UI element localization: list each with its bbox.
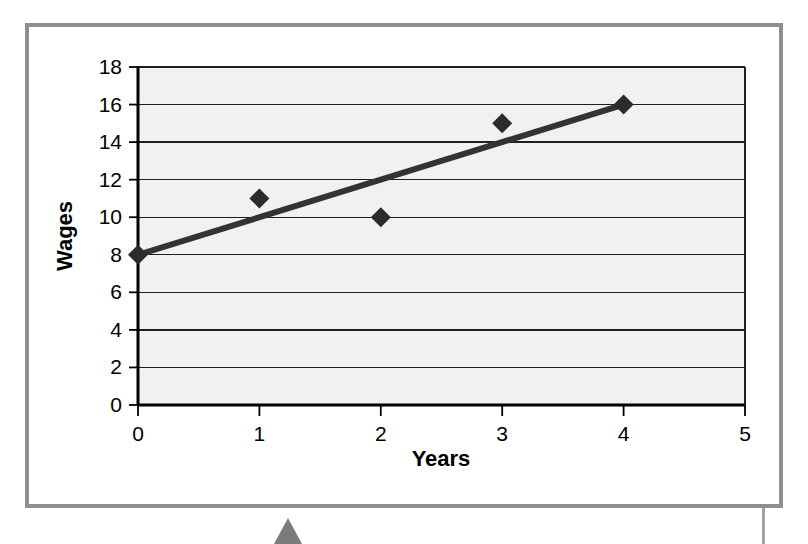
y-tick-label: 6 bbox=[110, 280, 122, 303]
x-tick-label: 2 bbox=[375, 422, 387, 445]
y-tick-label: 8 bbox=[110, 243, 122, 266]
y-tick-label: 2 bbox=[110, 355, 122, 378]
x-tick-label: 0 bbox=[132, 422, 144, 445]
x-axis-ticks bbox=[138, 405, 745, 416]
y-tick-label: 10 bbox=[99, 205, 122, 228]
y-axis-title: Wages bbox=[52, 201, 77, 271]
scatter-chart: 024681012141618 012345 Wages Years bbox=[0, 0, 808, 544]
y-tick-label: 18 bbox=[99, 55, 122, 78]
x-axis-title: Years bbox=[412, 446, 471, 471]
chart-area: 024681012141618 012345 Wages Years bbox=[0, 0, 808, 544]
y-tick-label: 12 bbox=[99, 168, 122, 191]
y-tick-label: 16 bbox=[99, 93, 122, 116]
y-tick-label: 4 bbox=[110, 318, 122, 341]
x-tick-label: 1 bbox=[254, 422, 266, 445]
x-tick-label: 5 bbox=[739, 422, 751, 445]
x-tick-label: 3 bbox=[496, 422, 508, 445]
y-tick-label: 0 bbox=[110, 393, 122, 416]
y-axis-tick-labels: 024681012141618 bbox=[99, 55, 123, 416]
x-tick-label: 4 bbox=[618, 422, 630, 445]
y-tick-label: 14 bbox=[99, 130, 123, 153]
x-axis-tick-labels: 012345 bbox=[132, 422, 751, 445]
plot-background bbox=[138, 67, 745, 405]
